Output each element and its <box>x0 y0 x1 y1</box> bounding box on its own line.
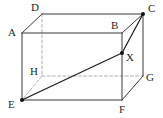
vertex-marker-e <box>20 98 24 102</box>
visible-edge-group <box>22 14 143 100</box>
vertex-label-g: G <box>146 72 154 83</box>
construction-line-group <box>22 14 143 100</box>
geometry-figure: ABCDEFGHX <box>0 0 163 118</box>
vertex-marker-x <box>120 51 124 55</box>
vertex-label-f: F <box>119 104 125 115</box>
vertex-label-b: B <box>111 20 118 31</box>
vertex-marker-c <box>141 12 145 16</box>
vertex-label-x: X <box>126 52 134 63</box>
vertex-label-d: D <box>31 2 39 13</box>
edge-f-g <box>122 76 143 100</box>
edge-b-c <box>122 14 143 33</box>
vertex-label-e: E <box>8 99 15 110</box>
edge-h-e <box>22 76 42 100</box>
vertex-label-a: A <box>8 27 16 38</box>
line-x-c <box>122 14 143 53</box>
vertex-label-h: H <box>30 66 38 77</box>
edge-a-d <box>22 14 42 33</box>
hidden-edge-group <box>22 14 143 100</box>
vertex-label-c: C <box>148 3 155 14</box>
cuboid-svg <box>0 0 163 118</box>
